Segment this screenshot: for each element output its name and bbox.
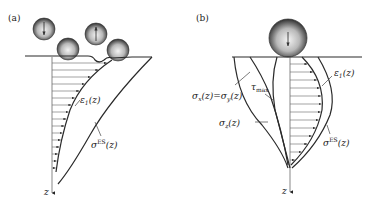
panel-a-label: (a) [8,13,20,23]
panel-a: (a) z ε1(z) [8,13,152,197]
epsilon-curve-b [291,57,322,165]
tau-max-label: τmax [251,82,269,93]
sigma-z-curve [234,57,288,168]
tau-max-leader [265,94,273,100]
sigma-xy-label: σx(z)=σy(z) [192,91,243,103]
diagram: (a) z ε1(z) [0,0,371,202]
sigma-es-leader-b [327,125,330,134]
sigma-es-curve-b [292,57,332,168]
sigma-es-label-b: σES(z) [323,136,350,148]
z-axis-label-b: z [281,186,287,196]
sigma-z-label: σz(z) [219,118,241,129]
sphere-resting-1 [57,38,79,60]
surface-line [25,56,152,62]
sigma-es-label-a: σES(z) [91,138,118,150]
tau-max-curve [273,57,290,168]
sphere-rebounding [85,23,107,45]
epsilon-label-a: ε1(z) [80,95,101,106]
sigma-xy-curve [250,57,288,165]
panel-b-label: (b) [196,13,209,23]
z-axis-label: z [43,187,49,197]
epsilon-label-b: ε1(z) [334,68,355,79]
sigma-es-curve-a [58,57,152,184]
sigma-leader-a [95,122,101,136]
panel-b: (b) z σx(z)=σy(z) σz(z) τmax [192,13,362,196]
sphere-impacting [269,19,307,57]
sphere-falling [33,18,55,40]
